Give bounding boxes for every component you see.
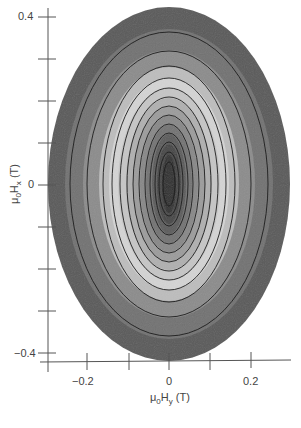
- y-label-unit: (T): [8, 164, 20, 181]
- y-label-subx: x: [14, 181, 23, 185]
- y-label-sub0: 0: [14, 193, 23, 197]
- contour-band: [162, 155, 176, 213]
- y-axis-label: μ0Hx (T): [8, 164, 20, 204]
- y-tick-label-neg0.4: −0.4: [14, 347, 36, 359]
- x-tick-label-neg0.2: −0.2: [72, 375, 94, 387]
- x-label-unit: (T): [173, 391, 190, 403]
- contour-bands: [48, 7, 290, 361]
- y-tick-label-0: 0: [28, 178, 34, 190]
- x-label-h: H: [161, 391, 169, 403]
- y-label-mu: μ: [8, 198, 20, 204]
- x-label-suby: y: [169, 397, 173, 406]
- x-tick-label-0.2: 0.2: [243, 375, 258, 387]
- x-label-sub0: 0: [156, 397, 160, 406]
- y-tick-label-0.4: 0.4: [18, 10, 33, 22]
- x-tick-label-0: 0: [166, 375, 172, 387]
- x-axis-label: μ0Hy (T): [150, 391, 190, 403]
- contour-plot: [0, 0, 301, 428]
